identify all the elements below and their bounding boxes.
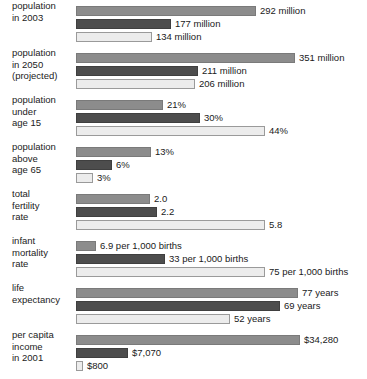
bar-row: $7,070 [76,343,367,354]
category-label-line: rate [12,211,74,223]
group-spacer [0,181,367,188]
category-label-line: rate [12,258,74,270]
bar-row: 30% [76,108,367,119]
bar-value-label: 75 per 1,000 births [269,267,348,277]
category-label-line: age 65 [12,164,74,176]
category-label-line: population [12,94,74,106]
bar-value-label: 44% [269,126,288,136]
bar-row: 3% [76,168,367,179]
bar-series-2 [76,314,230,324]
bar-value-label: 52 years [234,314,270,324]
bar-row: 211 million [76,61,367,72]
category-label: infantmortalityrate [12,235,74,270]
bar-row: 351 million [76,48,367,59]
category-label-line: total [12,188,74,200]
bar-group: totalfertilityrate2.02.25.8 [0,188,367,226]
bar-value-label: 5.8 [269,220,282,230]
category-label-line: in 2050 [12,59,74,71]
bar-group: populationaboveage 6513%6%3% [0,141,367,179]
bar-value-label: 3% [97,173,111,183]
bar-row: 2.0 [76,189,367,200]
bar-stack: 292 million177 million134 million [76,0,367,38]
bar-group: populationin 2050(projected)351 million2… [0,47,367,85]
bar-group: populationin 2003292 million177 million1… [0,0,367,38]
comparative-demographics-bar-chart: populationin 2003292 million177 million1… [0,0,367,379]
bar-row: 292 million [76,1,367,12]
category-label: populationin 2050(projected) [12,47,74,82]
bar-row: 21% [76,95,367,106]
bar-group: lifeexpectancy77 years69 years52 years [0,282,367,320]
category-label: lifeexpectancy [12,282,74,305]
bar-row: 2.2 [76,202,367,213]
category-label-line: population [12,141,74,153]
bar-stack: 6.9 per 1,000 births33 per 1,000 births7… [76,235,367,273]
bar-row: 44% [76,121,367,132]
category-label: populationunderage 15 [12,94,74,129]
bar-group: populationunderage 1521%30%44% [0,94,367,132]
bar-row: 33 per 1,000 births [76,249,367,260]
bar-value-label: 134 million [156,32,201,42]
category-label-line: income [12,341,74,353]
category-label-line: population [12,47,74,59]
category-label: populationaboveage 65 [12,141,74,176]
category-label-line: in 2003 [12,12,74,24]
category-label: per capitaincomein 2001 [12,329,74,364]
bar-row: 177 million [76,14,367,25]
bar-row: 75 per 1,000 births [76,262,367,273]
bar-row: 6.9 per 1,000 births [76,236,367,247]
bar-group: infantmortalityrate6.9 per 1,000 births3… [0,235,367,273]
bar-stack: 351 million211 million206 million [76,47,367,85]
category-label-line: mortality [12,247,74,259]
bar-series-2 [76,126,265,136]
category-label-line: per capita [12,329,74,341]
bar-row: 69 years [76,296,367,307]
category-label-line: fertility [12,200,74,212]
bar-series-2 [76,32,152,42]
bar-stack: 21%30%44% [76,94,367,132]
bar-value-label: $800 [87,361,108,371]
category-label: totalfertilityrate [12,188,74,223]
category-label-line: infant [12,235,74,247]
bar-row: 6% [76,155,367,166]
bar-stack: $34,280$7,070$800 [76,329,367,367]
category-label-line: age 15 [12,117,74,129]
bar-row: 77 years [76,283,367,294]
bar-series-2 [76,173,93,183]
bar-row: 52 years [76,309,367,320]
category-label-line: above [12,153,74,165]
bar-series-2 [76,220,265,230]
bar-row: 206 million [76,74,367,85]
bar-row: $34,280 [76,330,367,341]
bar-series-2 [76,267,265,277]
bar-row: 13% [76,142,367,153]
bar-series-2 [76,79,195,89]
category-label-line: in 2001 [12,352,74,364]
category-label-line: life [12,282,74,294]
bar-group: per capitaincomein 2001$34,280$7,070$800 [0,329,367,367]
bar-value-label: 206 million [199,79,244,89]
category-label: populationin 2003 [12,0,74,23]
bar-stack: 2.02.25.8 [76,188,367,226]
category-label-line: (projected) [12,70,74,82]
bar-stack: 13%6%3% [76,141,367,179]
category-label-line: population [12,0,74,12]
category-label-line: expectancy [12,294,74,306]
bar-row: $800 [76,356,367,367]
bar-series-2 [76,361,83,371]
bar-row: 134 million [76,27,367,38]
bar-row: 5.8 [76,215,367,226]
category-label-line: under [12,106,74,118]
bar-stack: 77 years69 years52 years [76,282,367,320]
